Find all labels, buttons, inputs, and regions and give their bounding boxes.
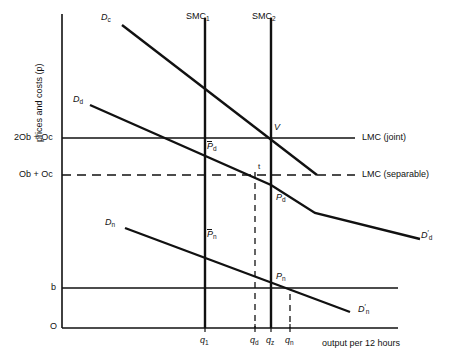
x-tick-q1: q1 xyxy=(200,336,209,345)
curve-label-smc2-base: SMC xyxy=(252,11,272,21)
point-label-v: V xyxy=(274,123,280,132)
price-label-pd-sub: d xyxy=(282,196,286,203)
curve-label-lmc-separable: LMC (separable) xyxy=(362,170,429,179)
curve-label-lmc-joint: LMC (joint) xyxy=(362,133,406,142)
origin-label: O xyxy=(50,322,57,331)
price-label-pn-sub: n xyxy=(282,275,286,282)
curve-label-dn-prime-sub: n xyxy=(366,308,370,315)
x-tick-qd: qd xyxy=(250,336,259,345)
curve-label-dd-base: D xyxy=(73,94,80,104)
x-tick-q1-sub: 1 xyxy=(205,339,209,346)
overbar-rule xyxy=(207,141,212,142)
curve-label-dd-prime: D′d xyxy=(421,231,432,240)
curve-label-smc2-sub: 2 xyxy=(272,15,276,22)
price-label-pd-bar-sub: d xyxy=(213,145,217,152)
price-label-pd: Pd xyxy=(276,193,286,202)
x-tick-qz-sub: z xyxy=(271,339,274,346)
dc-curve xyxy=(122,25,317,175)
curve-label-dd-prime-base: D xyxy=(421,230,428,240)
x-tick-qz: qz xyxy=(266,336,274,345)
curve-label-dd-sub: d xyxy=(80,98,84,105)
curve-label-dc-base: D xyxy=(101,12,108,22)
curve-label-dn-prime-base: D xyxy=(358,304,365,314)
curve-label-smc1: SMC1 xyxy=(186,12,210,21)
y-tick-ob-oc: Ob + Oc xyxy=(19,170,53,179)
price-label-pd-bar: Pd xyxy=(207,142,217,151)
curve-label-dn-base: D xyxy=(105,217,112,227)
curve-label-smc1-sub: 1 xyxy=(206,15,210,22)
curve-label-dc: Dc xyxy=(101,13,111,22)
curve-label-dd-prime-sub: d xyxy=(429,234,433,241)
curve-label-dn-sub: n xyxy=(112,221,116,228)
y-tick-2ob-oc: 2Ob + Oc xyxy=(14,133,53,142)
curve-label-dn-prime: D′n xyxy=(358,305,369,314)
chart-plot-area xyxy=(0,0,457,362)
point-label-t: t xyxy=(258,163,260,171)
dn-curve xyxy=(125,228,350,312)
price-label-pn-bar-sub: n xyxy=(213,233,217,240)
curve-label-dc-sub: c xyxy=(108,16,111,23)
x-axis-title: output per 12 hours xyxy=(322,339,400,348)
price-label-pn: Pn xyxy=(276,272,286,281)
x-tick-qn: qn xyxy=(285,336,294,345)
overbar-rule xyxy=(207,229,212,230)
y-tick-b: b xyxy=(51,283,56,292)
y-axis-title: prices and costs (p) xyxy=(34,63,44,142)
x-tick-qd-sub: d xyxy=(255,339,259,346)
curve-label-dn: Dn xyxy=(105,218,115,227)
curve-label-smc1-base: SMC xyxy=(186,11,206,21)
curve-label-dd: Dd xyxy=(73,95,83,104)
curve-label-smc2: SMC2 xyxy=(252,12,276,21)
price-label-pn-bar: Pn xyxy=(207,230,217,239)
x-tick-qn-sub: n xyxy=(290,339,294,346)
diagram-canvas: prices and costs (p) 2Ob + Oc Ob + Oc b … xyxy=(0,0,457,362)
